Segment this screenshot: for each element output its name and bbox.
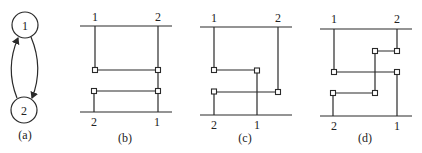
net-2-wire <box>94 91 158 112</box>
top-pin-label-2: 2 <box>394 12 400 26</box>
net-1-wire <box>95 26 158 70</box>
edge-2-to-1-arrow-icon <box>11 38 18 98</box>
bottom-pin-label-2: 2 <box>211 118 217 132</box>
bottom-pin-label-1: 1 <box>254 118 260 132</box>
bottom-pin-label-1: 1 <box>154 115 160 129</box>
top-pin-label-1: 1 <box>92 10 98 24</box>
caption-b: (b) <box>118 131 132 145</box>
net-2-wire <box>214 27 278 115</box>
routing-diagram: 1 2 (a) 1 2 2 1 (b) 1 2 2 1 <box>0 0 422 153</box>
via-square <box>156 68 161 73</box>
caption-a: (a) <box>18 128 31 142</box>
top-pin-label-1: 1 <box>331 12 337 26</box>
via-square <box>93 68 98 73</box>
node-2-label: 2 <box>21 104 27 118</box>
via-square <box>332 70 337 75</box>
panel-c-routing: 1 2 2 1 (c) <box>200 11 292 145</box>
caption-d: (d) <box>358 131 372 145</box>
via-square <box>331 91 336 96</box>
via-square <box>395 70 400 75</box>
edge-1-to-2-arrow-icon <box>31 37 38 98</box>
top-pin-label-2: 2 <box>155 10 161 24</box>
panel-d-routing: 1 2 2 1 (d) <box>320 12 412 145</box>
top-pin-label-1: 1 <box>211 11 217 25</box>
via-square <box>373 91 378 96</box>
via-square <box>212 89 217 94</box>
bottom-pin-label-2: 2 <box>91 115 97 129</box>
via-square <box>373 49 378 54</box>
via-square <box>276 90 281 95</box>
bottom-pin-label-2: 2 <box>331 119 337 133</box>
via-square <box>212 68 217 73</box>
panel-b-routing: 1 2 2 1 (b) <box>80 10 172 145</box>
caption-c: (c) <box>238 131 251 145</box>
via-square <box>255 68 260 73</box>
net-1-wire <box>334 29 397 116</box>
via-square <box>92 89 97 94</box>
via-square <box>156 89 161 94</box>
top-pin-label-2: 2 <box>275 11 281 25</box>
net-1-wire <box>214 27 257 115</box>
node-1-label: 1 <box>22 19 28 33</box>
via-square <box>395 49 400 54</box>
panel-a-graph: 1 2 (a) <box>11 12 38 142</box>
bottom-pin-label-1: 1 <box>394 119 400 133</box>
